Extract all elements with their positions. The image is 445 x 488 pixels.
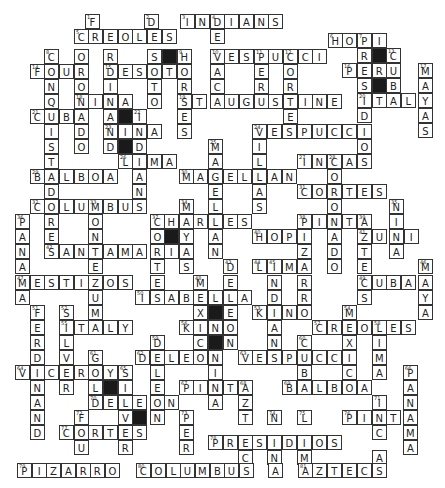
crossword-cell[interactable]: A	[267, 320, 282, 335]
crossword-cell[interactable]: A	[208, 229, 223, 244]
crossword-cell[interactable]: 13C	[386, 48, 401, 63]
crossword-cell[interactable]: E	[177, 109, 192, 124]
crossword-cell[interactable]: I	[267, 305, 282, 320]
crossword-cell[interactable]: O	[74, 425, 89, 440]
crossword-cell[interactable]: A	[297, 259, 312, 274]
crossword-cell[interactable]: I	[224, 14, 239, 29]
crossword-cell[interactable]: E	[208, 184, 223, 199]
crossword-cell[interactable]: O	[357, 320, 372, 335]
crossword-cell[interactable]: E	[59, 365, 74, 380]
crossword-cell[interactable]: U	[386, 63, 401, 78]
crossword-cell[interactable]: N	[150, 410, 165, 425]
crossword-cell[interactable]: 37C	[150, 214, 165, 229]
crossword-cell[interactable]: O	[88, 169, 103, 184]
crossword-cell[interactable]: A	[237, 290, 252, 305]
crossword-cell[interactable]: E	[342, 463, 357, 478]
crossword-cell[interactable]: Z	[312, 463, 327, 478]
crossword-cell[interactable]: P	[282, 229, 297, 244]
crossword-cell[interactable]: O	[357, 139, 372, 154]
crossword-cell[interactable]: N	[389, 229, 404, 244]
crossword-cell[interactable]: 44L	[252, 259, 267, 274]
crossword-cell[interactable]: A	[59, 244, 74, 259]
crossword-cell[interactable]: R	[76, 463, 91, 478]
crossword-cell[interactable]: 18N	[74, 94, 89, 109]
crossword-cell[interactable]: E	[238, 435, 253, 450]
crossword-cell[interactable]: E	[103, 29, 118, 44]
crossword-cell[interactable]: 57C	[312, 320, 327, 335]
crossword-cell[interactable]: 7P	[357, 33, 372, 48]
crossword-cell[interactable]: E	[254, 64, 269, 79]
crossword-cell[interactable]: S	[252, 199, 267, 214]
crossword-cell[interactable]: 66P	[403, 365, 418, 380]
crossword-cell[interactable]: 61G	[88, 350, 103, 365]
crossword-cell[interactable]: 34M	[179, 199, 194, 214]
crossword-cell[interactable]: I	[357, 410, 372, 425]
crossword-cell[interactable]: U	[254, 94, 269, 109]
crossword-cell[interactable]: E	[103, 395, 118, 410]
crossword-cell[interactable]: D	[267, 290, 282, 305]
crossword-cell[interactable]: E	[223, 275, 238, 290]
crossword-cell[interactable]: 24V	[252, 124, 267, 139]
crossword-cell[interactable]: R	[297, 290, 312, 305]
crossword-cell[interactable]: E	[179, 425, 194, 440]
crossword-cell[interactable]: C	[357, 463, 372, 478]
crossword-cell[interactable]: O	[177, 64, 192, 79]
crossword-cell[interactable]: A	[30, 395, 45, 410]
crossword-cell[interactable]: I	[297, 435, 312, 450]
crossword-cell[interactable]: E	[386, 320, 401, 335]
crossword-cell[interactable]: I	[32, 463, 47, 478]
crossword-cell[interactable]: O	[151, 463, 166, 478]
crossword-cell[interactable]: 45I	[267, 259, 282, 274]
crossword-cell[interactable]: D	[357, 108, 372, 123]
crossword-cell[interactable]: 3I	[180, 14, 195, 29]
crossword-cell[interactable]: Y	[418, 290, 433, 305]
crossword-cell[interactable]: X	[342, 335, 357, 350]
crossword-cell[interactable]: G	[208, 169, 223, 184]
crossword-cell[interactable]: L	[312, 380, 327, 395]
crossword-cell[interactable]: S	[418, 123, 433, 138]
crossword-cell[interactable]: 78P	[208, 435, 223, 450]
crossword-cell[interactable]: A	[210, 64, 225, 79]
crossword-cell[interactable]: S	[282, 124, 297, 139]
crossword-cell[interactable]: A	[267, 169, 282, 184]
crossword-cell[interactable]: A	[118, 94, 133, 109]
crossword-cell[interactable]: 69B	[282, 380, 297, 395]
crossword-cell[interactable]: R	[59, 380, 74, 395]
crossword-cell[interactable]: O	[342, 33, 357, 48]
crossword-cell[interactable]: I	[208, 365, 223, 380]
crossword-cell[interactable]: N	[312, 154, 327, 169]
crossword-cell[interactable]: C	[298, 49, 313, 64]
crossword-cell[interactable]: 4D	[210, 14, 225, 29]
crossword-cell[interactable]: G	[239, 94, 254, 109]
crossword-cell[interactable]: N	[195, 14, 210, 29]
crossword-cell[interactable]: O	[103, 275, 118, 290]
crossword-cell[interactable]: 65S	[118, 365, 133, 380]
crossword-cell[interactable]: 33M	[88, 199, 103, 214]
crossword-cell[interactable]: M	[372, 350, 387, 365]
crossword-cell[interactable]: A	[401, 275, 416, 290]
crossword-cell[interactable]: L	[132, 29, 147, 44]
crossword-cell[interactable]: 53K	[252, 305, 267, 320]
crossword-cell[interactable]: M	[88, 305, 103, 320]
crossword-cell[interactable]: Y	[179, 229, 194, 244]
crossword-cell[interactable]: M	[195, 463, 210, 478]
crossword-cell[interactable]: B	[74, 169, 89, 184]
crossword-cell[interactable]: A	[208, 395, 223, 410]
crossword-cell[interactable]: N	[30, 380, 45, 395]
crossword-cell[interactable]: A	[403, 440, 418, 455]
crossword-cell[interactable]: 17M	[418, 63, 433, 78]
crossword-cell[interactable]: B	[386, 78, 401, 93]
crossword-cell[interactable]: A	[147, 124, 162, 139]
crossword-cell[interactable]: L	[59, 335, 74, 350]
crossword-cell[interactable]: C	[372, 425, 387, 440]
crossword-cell[interactable]: N	[132, 184, 147, 199]
crossword-cell[interactable]: I	[164, 244, 179, 259]
crossword-cell[interactable]: R	[223, 435, 238, 450]
crossword-cell[interactable]: L	[208, 199, 223, 214]
crossword-cell[interactable]: S	[267, 350, 282, 365]
crossword-cell[interactable]: D	[30, 425, 45, 440]
crossword-cell[interactable]: 79P	[17, 463, 32, 478]
crossword-cell[interactable]: L	[88, 380, 103, 395]
crossword-cell[interactable]: U	[74, 440, 89, 455]
crossword-cell[interactable]: N	[103, 94, 118, 109]
